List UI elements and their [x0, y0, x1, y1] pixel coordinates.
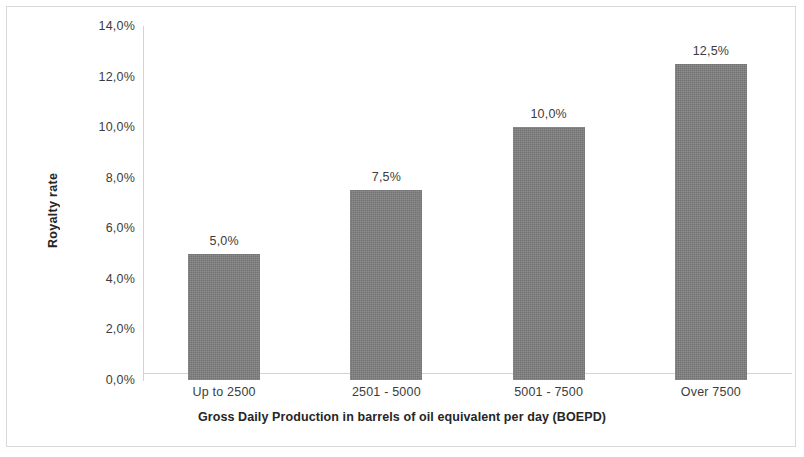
bar-value-label: 12,5%	[693, 44, 729, 58]
x-axis-title: Gross Daily Production in barrels of oil…	[7, 410, 797, 424]
bar-column[interactable]: 10,0%	[513, 26, 585, 380]
x-axis-category-label: Up to 2500	[143, 385, 305, 399]
bar-column[interactable]: 5,0%	[188, 26, 260, 380]
bar-value-label: 7,5%	[372, 170, 401, 184]
y-axis-tick-label: 6,0%	[37, 221, 135, 235]
y-axis-tick-label: 10,0%	[37, 120, 135, 134]
plot-area: 5,0%7,5%10,0%12,5%	[143, 26, 791, 380]
bar[interactable]	[675, 64, 747, 380]
x-axis-category-label: 2501 - 5000	[305, 385, 467, 399]
y-axis-tick-label: 8,0%	[37, 171, 135, 185]
bar-column[interactable]: 7,5%	[350, 26, 422, 380]
y-axis-tick-label: 4,0%	[37, 272, 135, 286]
bar[interactable]	[188, 254, 260, 380]
y-axis-tick-label: 2,0%	[37, 322, 135, 336]
y-axis-tick-label: 0,0%	[37, 373, 135, 387]
bar-column[interactable]: 12,5%	[675, 26, 747, 380]
x-axis-category-label: Over 7500	[630, 385, 792, 399]
y-axis-tick-labels: 0,0%2,0%4,0%6,0%8,0%10,0%12,0%14,0%	[37, 26, 135, 374]
y-axis-tick-label: 14,0%	[37, 19, 135, 33]
x-axis-category-labels: Up to 25002501 - 50005001 - 7500Over 750…	[143, 385, 792, 407]
bar[interactable]	[350, 190, 422, 380]
bar-value-label: 5,0%	[209, 234, 238, 248]
chart-container: Royalty rate 0,0%2,0%4,0%6,0%8,0%10,0%12…	[6, 6, 796, 447]
x-axis-category-label: 5001 - 7500	[468, 385, 630, 399]
bar[interactable]	[513, 127, 585, 380]
y-axis-tick-label: 12,0%	[37, 70, 135, 84]
bar-value-label: 10,0%	[530, 107, 566, 121]
